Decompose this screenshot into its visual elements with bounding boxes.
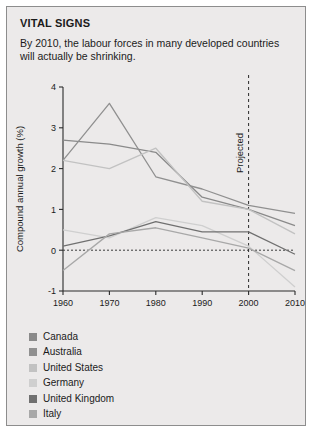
y-tick-label: -1: [48, 286, 56, 296]
legend-swatch-icon: [29, 333, 37, 341]
legend-swatch-icon: [29, 364, 37, 372]
x-tick-label: 2000: [239, 298, 259, 308]
legend-item-italy[interactable]: Italy: [29, 407, 289, 423]
legend-swatch-icon: [29, 379, 37, 387]
card-subtitle: By 2010, the labour forces in many devel…: [20, 37, 292, 63]
x-tick-label: 1990: [192, 298, 212, 308]
vital-signs-card: VITAL SIGNS By 2010, the labour forces i…: [6, 6, 306, 426]
legend-item-label: United States: [43, 363, 103, 373]
legend-item-australia[interactable]: Australia: [29, 345, 289, 361]
y-tick-label: 3: [51, 123, 56, 133]
series-line-germany: [63, 218, 295, 287]
x-tick-label: 2010: [285, 298, 305, 308]
series-line-united-kingdom: [63, 222, 295, 255]
legend-item-label: Australia: [43, 347, 82, 357]
y-tick-label: 1: [51, 205, 56, 215]
legend-item-united-kingdom[interactable]: United Kingdom: [29, 391, 289, 407]
y-tick-label: 2: [51, 164, 56, 174]
legend-item-label: Italy: [43, 409, 61, 419]
line-chart: -101234196019701980199020002010Compound …: [7, 69, 307, 319]
legend-item-label: United Kingdom: [43, 394, 114, 404]
series-line-italy: [63, 228, 295, 271]
chart-legend: CanadaAustraliaUnited StatesGermanyUnite…: [29, 329, 289, 422]
y-axis-label: Compound annual growth (%): [14, 126, 25, 252]
projected-label: Projected: [234, 133, 245, 173]
legend-swatch-icon: [29, 348, 37, 356]
legend-item-label: Canada: [43, 332, 78, 342]
legend-item-united-states[interactable]: United States: [29, 360, 289, 376]
y-tick-label: 4: [51, 82, 56, 92]
series-line-australia: [63, 103, 295, 213]
x-tick-label: 1980: [146, 298, 166, 308]
legend-item-label: Germany: [43, 378, 84, 388]
y-tick-label: 0: [51, 246, 56, 256]
x-tick-label: 1970: [99, 298, 119, 308]
page-title: VITAL SIGNS: [20, 17, 90, 29]
legend-item-canada[interactable]: Canada: [29, 329, 289, 345]
legend-item-germany[interactable]: Germany: [29, 376, 289, 392]
legend-swatch-icon: [29, 395, 37, 403]
x-tick-label: 1960: [53, 298, 73, 308]
chart-area: -101234196019701980199020002010Compound …: [7, 69, 307, 319]
legend-swatch-icon: [29, 410, 37, 418]
